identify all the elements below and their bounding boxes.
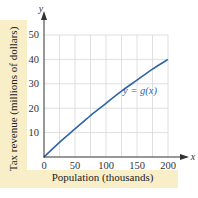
x-axis-name: x bbox=[190, 151, 196, 162]
x-tick-50: 50 bbox=[70, 160, 81, 171]
x-tick-0: 0 bbox=[41, 160, 46, 171]
y-tick-40: 40 bbox=[29, 54, 40, 65]
y-tick-50: 50 bbox=[29, 29, 40, 40]
y-tick-10: 10 bbox=[29, 127, 40, 138]
curve-label: y = g(x) bbox=[122, 85, 157, 97]
y-tick-30: 30 bbox=[29, 78, 40, 89]
x-tick-200: 200 bbox=[160, 160, 176, 171]
y-axis bbox=[41, 11, 47, 158]
x-tick-150: 150 bbox=[129, 160, 145, 171]
x-tick-100: 100 bbox=[98, 160, 114, 171]
y-tick-20: 20 bbox=[29, 103, 40, 114]
y-axis-name: y bbox=[38, 3, 44, 14]
chart-plot: y x 0 50 100 150 200 10 20 30 40 50 y = … bbox=[0, 0, 198, 198]
x-axis-arrow-icon bbox=[180, 154, 189, 160]
